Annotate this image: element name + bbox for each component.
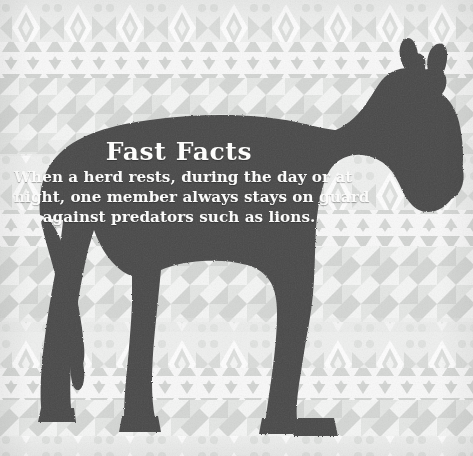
fast-facts-text-block: Fast Facts When a herd rests, during the… (14, 138, 344, 227)
fact-line-3: against predators such as lions. (14, 208, 344, 228)
fast-facts-card: Fast Facts When a herd rests, during the… (0, 0, 473, 456)
fact-line-1: When a herd rests, during the day or at (14, 168, 344, 188)
fact-line-2: night, one member always stays on guard (14, 188, 344, 208)
fast-facts-body: When a herd rests, during the day or at … (14, 168, 344, 227)
zebra-silhouette-layer (0, 0, 473, 456)
fast-facts-title: Fast Facts (14, 138, 344, 165)
